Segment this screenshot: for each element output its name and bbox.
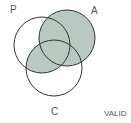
verdict-label: VALID	[104, 109, 127, 118]
label-a: A	[91, 5, 98, 16]
label-c: C	[51, 106, 58, 117]
venn-diagram	[0, 0, 131, 123]
label-p: P	[10, 4, 17, 15]
